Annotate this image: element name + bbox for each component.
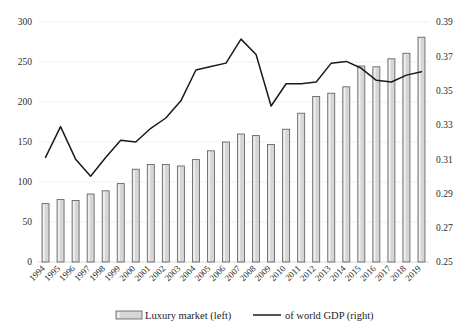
left-tick-label: 200 [18,97,33,107]
left-tick-label: 300 [18,17,33,27]
left-tick-label: 150 [18,137,33,147]
legend-bar-swatch-icon [116,311,142,319]
bar [57,200,64,262]
legend-label-luxury-market: Luxury market (left) [145,310,232,322]
bar [313,96,320,262]
bar [343,87,350,262]
bar [388,59,395,262]
luxury-market-gdp-chart: 050100150200250300 0.250.270.290.310.330… [0,0,475,332]
bar [87,194,94,262]
bar [328,93,335,262]
bar [253,136,260,262]
left-tick-label: 50 [23,217,33,227]
bar [222,142,229,262]
bar [132,169,139,262]
bar [147,164,154,262]
right-tick-label: 0.29 [436,189,453,199]
bar [207,151,214,262]
bar [42,204,49,262]
right-tick-label: 0.25 [436,257,453,267]
bar [177,166,184,262]
right-tick-label: 0.27 [436,223,453,233]
right-tick-label: 0.35 [436,86,453,96]
bar [268,144,275,262]
bar [358,66,365,262]
right-tick-label: 0.39 [436,17,453,27]
left-tick-label: 0 [27,257,32,267]
left-tick-label: 100 [18,177,33,187]
bar [102,191,109,262]
bar [72,200,79,262]
bar [298,113,305,262]
right-tick-label: 0.37 [436,52,453,62]
bar [192,160,199,262]
bar [117,184,124,262]
bar [403,53,410,262]
bar [418,37,425,262]
right-tick-label: 0.33 [436,120,453,130]
left-tick-label: 250 [18,57,33,67]
chart-container: 050100150200250300 0.250.270.290.310.330… [0,0,475,332]
right-tick-label: 0.31 [436,155,453,165]
bar [238,134,245,262]
bar [162,164,169,262]
bar [373,67,380,262]
bar [283,129,290,262]
legend-label-world-gdp: of world GDP (right) [285,310,374,322]
